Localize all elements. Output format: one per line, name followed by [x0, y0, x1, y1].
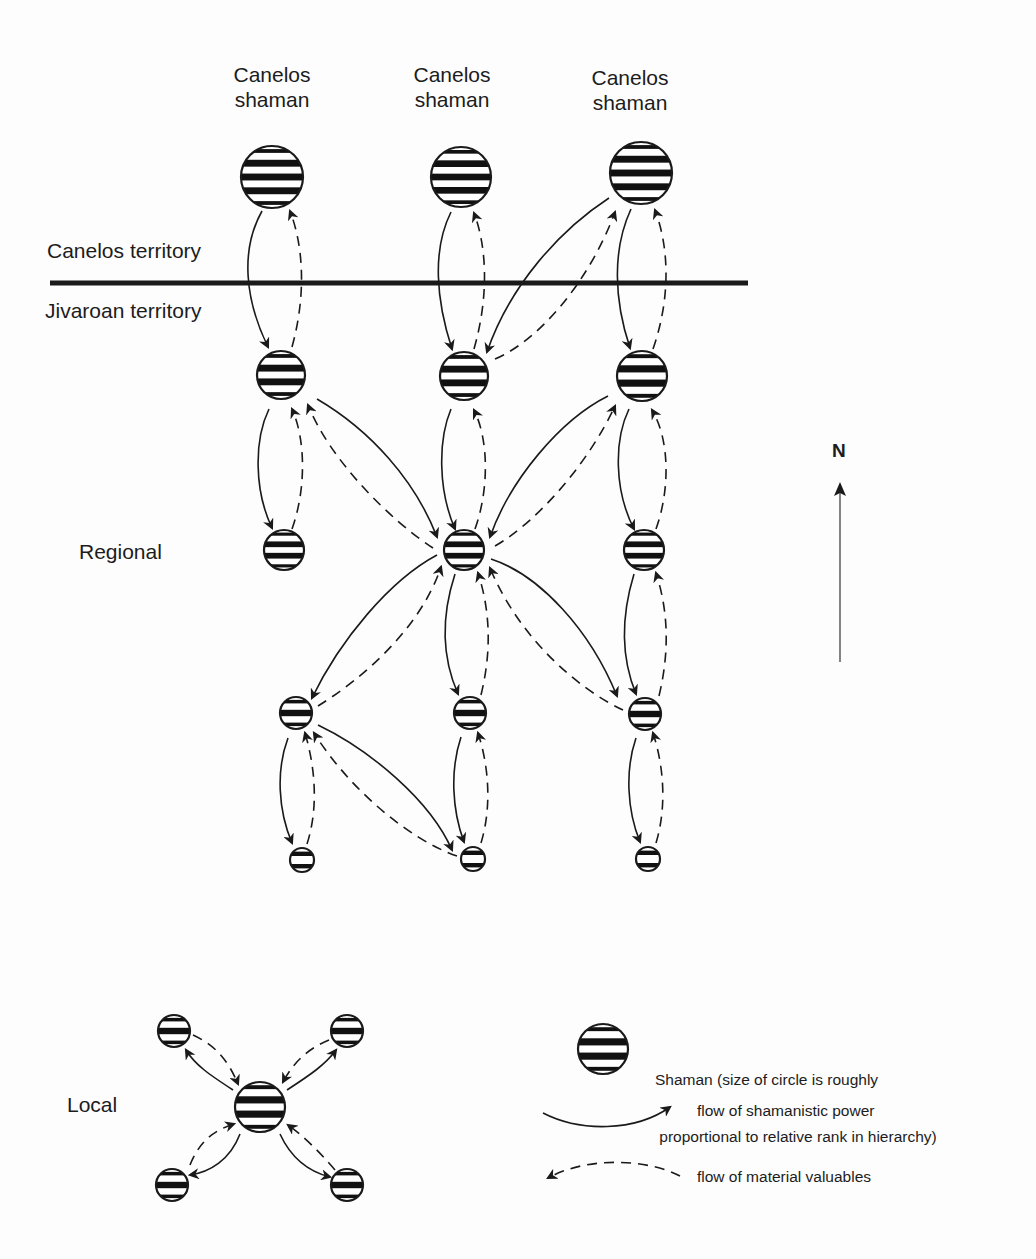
- label-line: shaman: [580, 90, 680, 115]
- shaman-node-icon: [264, 530, 304, 570]
- shaman-nodes: [156, 142, 672, 1201]
- label-line: shaman: [402, 87, 502, 112]
- valuables-flow-arrow-icon: [653, 210, 666, 349]
- regional-level-label: Regional: [79, 539, 162, 564]
- valuables-flow-arrow-icon: [652, 410, 666, 529]
- power-flow-arrow-icon: [629, 738, 640, 842]
- power-flow-arrow-icon: [318, 725, 452, 850]
- valuables-flow-arrow-icon: [656, 573, 666, 696]
- label-line: Canelos: [222, 62, 322, 87]
- power-flow-arrow-icon: [287, 1050, 336, 1090]
- valuables-flow-arrow-icon: [193, 1035, 238, 1084]
- shaman-node-icon: [624, 530, 664, 570]
- power-flow-arrow-icon: [312, 555, 437, 698]
- valuables-flow-arrow-icon: [190, 1124, 234, 1165]
- shaman-node-icon: [331, 1169, 363, 1201]
- legend-power-text: flow of shamanistic power: [697, 1101, 874, 1120]
- power-flow-arrow-icon: [190, 1134, 240, 1175]
- shaman-node-icon: [241, 146, 303, 208]
- legend-valuables-text: flow of material valuables: [697, 1167, 871, 1186]
- north-arrow-icon: [834, 482, 846, 662]
- power-flow-arrow-icon: [490, 396, 608, 537]
- shaman-node-icon: [331, 1015, 363, 1047]
- north-label: N: [832, 440, 846, 462]
- local-level-label: Local: [67, 1092, 117, 1117]
- power-flow-arrow-icon: [445, 574, 458, 694]
- valuables-flow-arrow-icon: [292, 409, 303, 529]
- label-line: shaman: [222, 87, 322, 112]
- label-line: Canelos: [580, 65, 680, 90]
- valuables-flow-arrow-icon: [478, 573, 488, 695]
- power-flow-arrow-icon: [618, 409, 634, 529]
- shaman-node-icon: [158, 1015, 190, 1047]
- shaman-node-icon: [440, 352, 488, 400]
- power-flow-arrow-icon: [186, 1050, 233, 1090]
- shaman-node-icon: [454, 697, 486, 729]
- legend-shaman-icon: [578, 1024, 628, 1074]
- shaman-node-icon: [444, 530, 484, 570]
- canelos-shaman-label-3: Canelos shaman: [580, 65, 680, 115]
- valuables-flow-arrow-icon: [318, 567, 441, 706]
- valuables-flow-arrow-icon: [314, 733, 457, 856]
- valuables-flow-arrow-icon: [474, 410, 485, 529]
- power-flow-arrow-icon: [280, 738, 292, 843]
- legend-line: Shaman (size of circle is roughly: [655, 1070, 937, 1089]
- power-flow-arrow-icon: [442, 409, 455, 529]
- shaman-node-icon: [629, 698, 661, 730]
- valuables-flow-arrow-icon: [308, 405, 433, 548]
- valuables-flow-arrow-icon: [490, 568, 623, 710]
- shaman-node-icon: [290, 848, 314, 872]
- shaman-node-icon: [280, 697, 312, 729]
- valuables-flow-arrow-icon: [305, 733, 314, 844]
- jivaroan-territory-label: Jivaroan territory: [45, 298, 201, 323]
- power-flow-arrow-icon: [617, 209, 631, 348]
- power-flow-arrow-icon: [317, 399, 437, 537]
- shaman-node-icon: [617, 351, 667, 401]
- shaman-node-icon: [431, 147, 491, 207]
- valuables-flow-arrow-icon: [495, 406, 615, 546]
- shaman-node-icon: [235, 1082, 285, 1132]
- valuables-flow-arrow-icon: [283, 1040, 329, 1082]
- shaman-node-icon: [257, 351, 305, 399]
- valuables-flow-arrow-icon: [290, 211, 302, 347]
- power-flow-arrow-icon: [454, 737, 464, 842]
- canelos-territory-label: Canelos territory: [47, 238, 201, 263]
- label-line: Canelos: [402, 62, 502, 87]
- shaman-node-icon: [610, 142, 672, 204]
- power-flow-arrow-icon: [258, 409, 272, 528]
- canelos-shaman-label-1: Canelos shaman: [222, 62, 322, 112]
- valuables-flow-arrow-icon: [653, 733, 663, 843]
- shaman-node-icon: [461, 847, 485, 871]
- power-flow-arrow-icon: [543, 1107, 670, 1127]
- legend-shaman-text: Shaman (size of circle is roughly propor…: [655, 1032, 937, 1165]
- shaman-node-icon: [156, 1169, 188, 1201]
- power-flow-arrow-icon: [624, 574, 636, 694]
- shaman-node-icon: [636, 847, 660, 871]
- valuables-flow-arrow-icon: [288, 1125, 335, 1170]
- power-flow-arrow-icon: [491, 559, 617, 696]
- power-flow-arrow-icon: [487, 198, 609, 352]
- canelos-shaman-label-2: Canelos shaman: [402, 62, 502, 112]
- power-flow-arrow-icon: [248, 211, 268, 347]
- valuables-flow-arrow-icon: [478, 733, 488, 843]
- legend-line: proportional to relative rank in hierarc…: [655, 1127, 937, 1146]
